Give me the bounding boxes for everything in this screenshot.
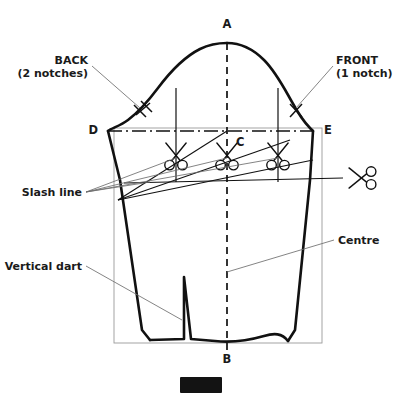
annotation-slash-line: Slash line xyxy=(22,186,82,199)
leader-front xyxy=(296,66,333,108)
figure-caption-badge xyxy=(180,377,222,393)
single-notch-mark xyxy=(290,104,302,117)
annotation-back-line2: (2 notches) xyxy=(17,67,88,80)
point-label-c: C xyxy=(236,135,244,149)
sleeve-cap-back-curve xyxy=(108,43,227,131)
annotation-back-line1: BACK xyxy=(55,54,89,67)
annotation-front-line2: (1 notch) xyxy=(336,67,393,80)
sleeve-hem-line-with-dart xyxy=(150,277,288,342)
annotation-front-line1: FRONT xyxy=(336,54,379,67)
figure-root: A B C D E BACK (2 notches) FRONT (1 notc… xyxy=(0,0,402,393)
annotation-vertical-dart: Vertical dart xyxy=(5,260,82,273)
sleeve-pattern-diagram: A B C D E BACK (2 notches) FRONT (1 notc… xyxy=(0,0,402,393)
point-label-b: B xyxy=(223,352,232,366)
sleeve-cap-front-curve xyxy=(227,43,313,131)
double-notch-mark xyxy=(134,101,152,117)
scissors-icon-side xyxy=(349,167,376,189)
slash-line-ray-1 xyxy=(118,131,227,200)
leader-centre xyxy=(227,240,334,272)
point-label-e: E xyxy=(324,123,332,137)
point-label-d: D xyxy=(88,123,98,137)
leader-back xyxy=(92,66,140,108)
point-label-a: A xyxy=(223,17,232,31)
annotation-centre: Centre xyxy=(338,234,380,247)
